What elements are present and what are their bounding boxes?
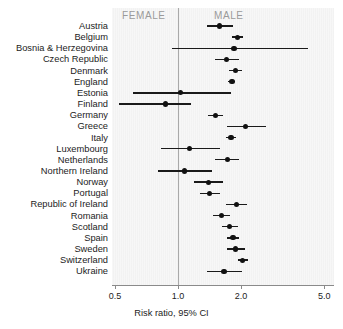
category-label: Republic of Ireland xyxy=(0,199,108,209)
point-estimate-marker xyxy=(231,46,236,51)
group-label-female: FEMALE xyxy=(122,10,166,21)
category-label: Italy xyxy=(0,133,108,143)
point-estimate-marker xyxy=(221,269,226,274)
category-label: Belgium xyxy=(0,32,108,42)
reference-line-null-effect xyxy=(178,8,179,285)
point-estimate-marker xyxy=(230,235,235,240)
point-estimate-marker xyxy=(224,57,229,62)
x-axis-tick xyxy=(324,285,325,289)
x-axis-tick-label: 0.5 xyxy=(109,291,122,301)
point-estimate-marker xyxy=(182,168,187,173)
category-label: Scotland xyxy=(0,222,108,232)
point-estimate-marker xyxy=(206,180,211,185)
category-label: Switzerland xyxy=(0,255,108,265)
x-axis-tick xyxy=(241,285,242,289)
x-axis-title: Risk ratio, 95% CI xyxy=(0,308,343,318)
x-axis-tick-label: 1.0 xyxy=(172,291,185,301)
category-label: Czech Republic xyxy=(0,54,108,64)
x-axis-tick-label: 5.0 xyxy=(318,291,331,301)
category-label: Bosnia & Herzegovina xyxy=(0,43,108,53)
point-estimate-marker xyxy=(229,79,234,84)
point-estimate-marker xyxy=(217,23,222,28)
category-label: Norway xyxy=(0,177,108,187)
point-estimate-marker xyxy=(213,113,218,118)
point-estimate-marker xyxy=(219,213,224,218)
plot-panel xyxy=(112,8,334,285)
category-label: Austria xyxy=(0,21,108,31)
forest-plot-figure: FEMALE MALE AustriaBelgiumBosnia & Herze… xyxy=(0,0,343,329)
point-estimate-marker xyxy=(243,124,248,129)
category-label: Denmark xyxy=(0,66,108,76)
category-label: Germany xyxy=(0,110,108,120)
point-estimate-marker xyxy=(163,101,168,106)
x-axis-tick xyxy=(115,285,116,289)
category-label: Finland xyxy=(0,99,108,109)
point-estimate-marker xyxy=(228,135,233,140)
x-axis-tick xyxy=(178,285,179,289)
category-label: Greece xyxy=(0,121,108,131)
category-label: England xyxy=(0,77,108,87)
group-label-male: MALE xyxy=(214,10,244,21)
confidence-interval-line xyxy=(172,48,308,49)
point-estimate-marker xyxy=(234,202,239,207)
category-label: Spain xyxy=(0,233,108,243)
category-label: Romania xyxy=(0,211,108,221)
category-label: Netherlands xyxy=(0,155,108,165)
category-label: Luxembourg xyxy=(0,144,108,154)
category-label: Estonia xyxy=(0,88,108,98)
category-label: Ukraine xyxy=(0,266,108,276)
category-label: Northern Ireland xyxy=(0,166,108,176)
axis-baseline xyxy=(112,285,334,286)
confidence-interval-line xyxy=(119,103,191,104)
x-axis-tick-label: 2.0 xyxy=(235,291,248,301)
panel-texture xyxy=(112,8,334,285)
category-label: Sweden xyxy=(0,244,108,254)
category-label: Portugal xyxy=(0,188,108,198)
